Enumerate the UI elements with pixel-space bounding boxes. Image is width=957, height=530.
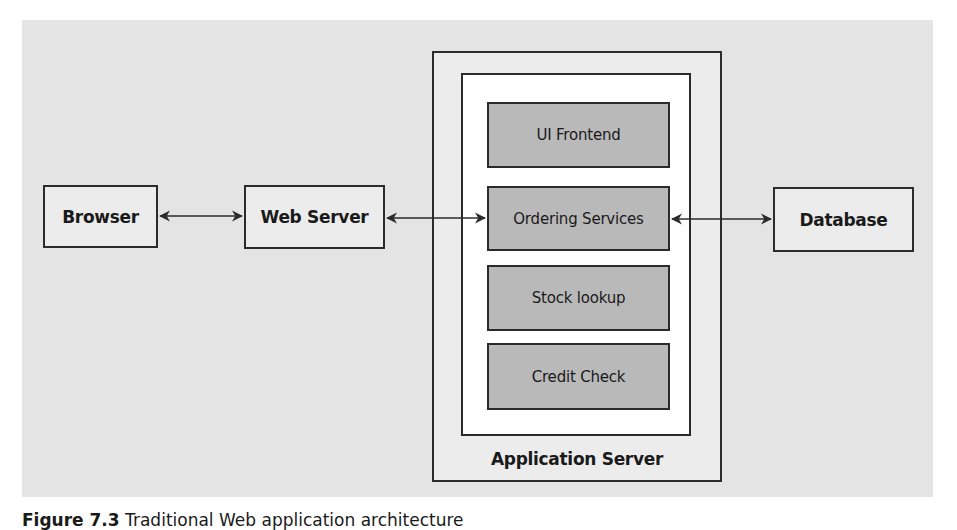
figure-caption-text: Traditional Web application architecture — [125, 510, 463, 530]
figure-label: Figure 7.3 — [22, 510, 120, 530]
figure-caption: Figure 7.3 Traditional Web application a… — [22, 510, 464, 530]
